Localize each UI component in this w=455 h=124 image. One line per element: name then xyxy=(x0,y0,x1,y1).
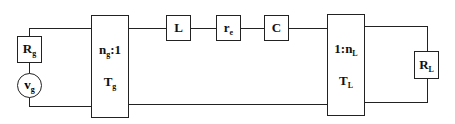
wire-right-top xyxy=(365,26,427,27)
rg-label: Rg xyxy=(23,41,36,58)
wire-middle-bottom xyxy=(128,104,327,105)
rl-label: RL xyxy=(419,57,434,74)
voltage-source-vg: vg xyxy=(17,73,42,98)
wire-right-bottom xyxy=(365,102,428,103)
re-label: re xyxy=(224,20,233,37)
capacitor-c: C xyxy=(264,15,289,41)
tg-ratio-label: ng:1 xyxy=(99,42,121,59)
inductor-l: L xyxy=(166,15,191,41)
c-label: C xyxy=(272,20,281,36)
tl-ratio-label: 1:nL xyxy=(334,41,357,58)
tg-name-label: Tg xyxy=(104,74,117,91)
tl-name-label: TL xyxy=(339,73,353,90)
transformer-tl: 1:nL TL xyxy=(327,14,365,116)
wire-left-top xyxy=(29,28,91,29)
source-resistor-rg: Rg xyxy=(17,36,42,63)
l-label: L xyxy=(174,20,183,36)
load-resistor-rl: RL xyxy=(414,51,439,79)
resistor-re: re xyxy=(216,15,241,41)
wire-left-bottom xyxy=(29,106,91,107)
transformer-tg: ng:1 Tg xyxy=(91,15,129,118)
vg-label: vg xyxy=(24,77,35,94)
